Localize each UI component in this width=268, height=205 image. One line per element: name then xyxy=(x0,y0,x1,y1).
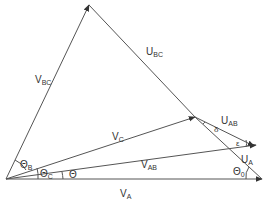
arc-epsilon xyxy=(246,140,247,147)
label-epsilon: ε xyxy=(236,140,240,148)
label-delta: δ xyxy=(214,126,218,134)
arc-theta-c xyxy=(37,168,38,179)
vector-vbc xyxy=(6,5,89,179)
label-vab: VAB xyxy=(141,160,157,171)
label-ubc: UBC xyxy=(146,47,163,58)
label-uab: UAB xyxy=(221,116,238,127)
label-vbc: VBC xyxy=(35,75,51,86)
label-theta-b: ΘB xyxy=(20,160,32,171)
label-ua: UA xyxy=(241,155,253,166)
arc-theta0 xyxy=(246,167,249,179)
label-theta0: Θ0 xyxy=(233,167,245,178)
arc-theta xyxy=(62,172,63,179)
label-vc: VC xyxy=(112,132,124,143)
vector-ubc xyxy=(89,5,195,117)
vector-vc xyxy=(6,117,195,179)
label-theta-c: ΘC xyxy=(40,169,53,180)
label-theta: Θ xyxy=(69,170,77,180)
label-va: VA xyxy=(120,189,131,200)
arc-delta xyxy=(203,122,205,124)
